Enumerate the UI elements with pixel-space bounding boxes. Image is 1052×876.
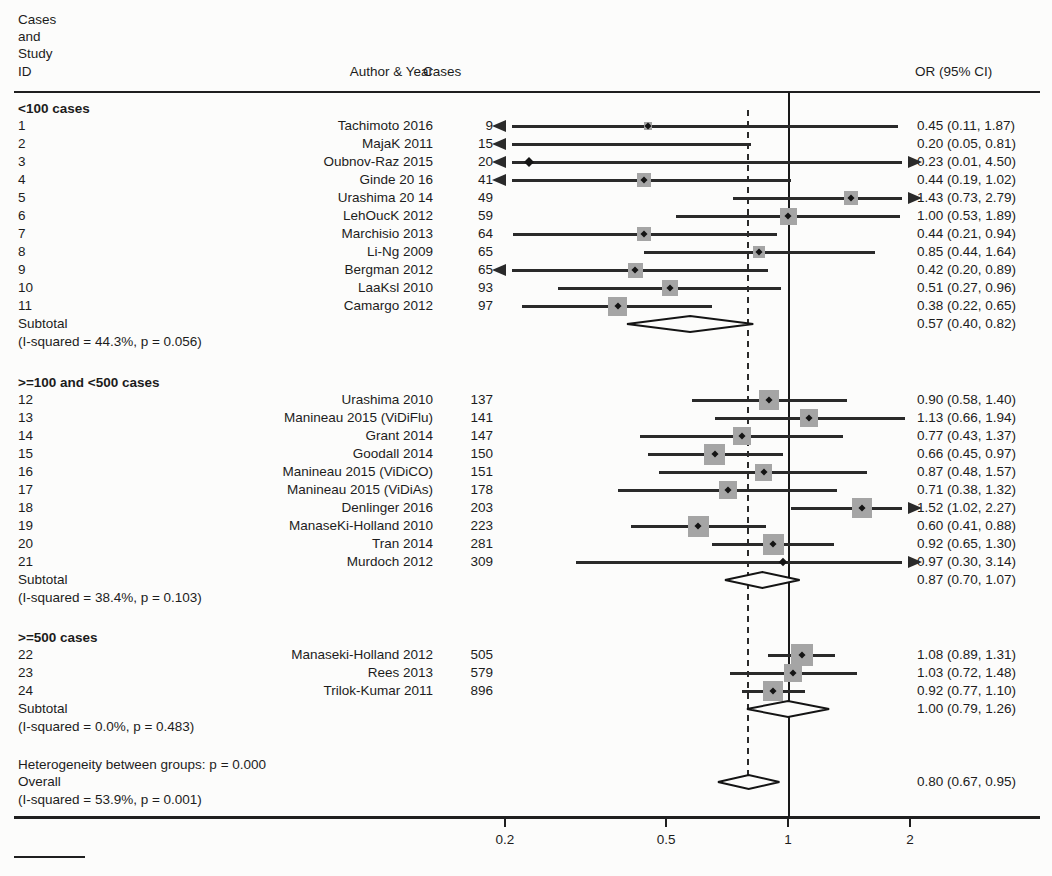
subtotal-diamond — [725, 572, 800, 588]
group-header: <100 cases — [18, 101, 90, 118]
study-cases: 896 — [443, 683, 493, 700]
study-id: 19 — [18, 518, 33, 535]
subtotal-isquared: (I-squared = 38.4%, p = 0.103) — [18, 590, 202, 607]
header-left-line-2: and — [18, 29, 41, 46]
study-ci-line — [512, 179, 791, 182]
study-cases: 93 — [443, 280, 493, 297]
study-id: 23 — [18, 665, 33, 682]
study-id: 7 — [18, 226, 26, 243]
study-cases: 505 — [443, 647, 493, 664]
study-author: Manineau 2015 (ViDiAs) — [150, 482, 433, 499]
axis-tick-label: 0.5 — [654, 832, 678, 849]
study-ci-line — [512, 161, 902, 164]
study-author: Bergman 2012 — [150, 262, 433, 279]
subtotal-or-text: 0.57 (0.40, 0.82) — [917, 316, 1016, 333]
study-or-text: 1.00 (0.53, 1.89) — [917, 208, 1016, 225]
study-author: Murdoch 2012 — [150, 554, 433, 571]
axis-tick — [787, 819, 789, 827]
study-cases: 59 — [443, 208, 493, 225]
subtotal-isquared: (I-squared = 44.3%, p = 0.056) — [18, 334, 202, 351]
subtotal-isquared: (I-squared = 0.0%, p = 0.483) — [18, 719, 194, 736]
study-id: 9 — [18, 262, 26, 279]
study-or-text: 0.87 (0.48, 1.57) — [917, 464, 1016, 481]
study-or-text: 0.92 (0.65, 1.30) — [917, 536, 1016, 553]
study-id: 4 — [18, 172, 26, 189]
study-point-marker — [778, 558, 786, 566]
study-ci-line — [512, 125, 898, 128]
study-ci-line — [791, 507, 902, 510]
study-id: 16 — [18, 464, 33, 481]
ci-clip-arrow-right — [908, 192, 922, 204]
axis-tick — [909, 819, 911, 827]
study-or-text: 0.38 (0.22, 0.65) — [917, 298, 1016, 315]
study-or-text: 0.44 (0.21, 0.94) — [917, 226, 1016, 243]
ci-clip-arrow-left — [492, 156, 506, 168]
study-author: LaaKsl 2010 — [150, 280, 433, 297]
study-or-text: 0.45 (0.11, 1.87) — [917, 118, 1015, 135]
group-header: >=100 and <500 cases — [18, 375, 160, 392]
study-or-text: 0.51 (0.27, 0.96) — [917, 280, 1016, 297]
study-cases: 223 — [443, 518, 493, 535]
header-left-line-4: ID — [18, 64, 32, 81]
study-or-text: 0.20 (0.05, 0.81) — [917, 136, 1016, 153]
header-rule — [14, 91, 1040, 93]
forest-plot: Cases and Study ID Author & Year Cases O… — [0, 0, 1052, 876]
study-author: Manaseki-Holland 2012 — [150, 647, 433, 664]
header-cases-col: Cases — [423, 64, 461, 81]
study-or-text: 0.44 (0.19, 1.02) — [917, 172, 1016, 189]
overall-estimate-dashed-line — [747, 110, 749, 783]
overall-diamond — [718, 775, 779, 789]
study-cases: 579 — [443, 665, 493, 682]
study-cases: 15 — [443, 136, 493, 153]
axis-tick-label: 1 — [776, 832, 800, 849]
ci-clip-arrow-right — [908, 156, 922, 168]
study-or-text: 0.71 (0.38, 1.32) — [917, 482, 1016, 499]
study-id: 21 — [18, 554, 33, 571]
study-cases: 41 — [443, 172, 493, 189]
study-id: 2 — [18, 136, 26, 153]
study-id: 14 — [18, 428, 33, 445]
study-or-text: 1.08 (0.89, 1.31) — [917, 647, 1016, 664]
ci-clip-arrow-right — [908, 502, 922, 514]
ci-clip-arrow-left — [492, 138, 506, 150]
ci-clip-arrow-right — [908, 556, 922, 568]
study-or-text: 0.97 (0.30, 3.14) — [917, 554, 1016, 571]
header-left-line-1: Cases — [18, 12, 56, 29]
study-author: Trilok-Kumar 2011 — [150, 683, 433, 700]
header-author-col: Author & Year — [233, 64, 433, 81]
subtotal-diamond — [627, 316, 753, 332]
study-or-text: 1.43 (0.73, 2.79) — [917, 190, 1016, 207]
study-cases: 309 — [443, 554, 493, 571]
study-or-text: 1.03 (0.72, 1.48) — [917, 665, 1016, 682]
study-author: ManaseKi-Holland 2010 — [150, 518, 433, 535]
study-author: Camargo 2012 — [150, 298, 433, 315]
study-author: Manineau 2015 (ViDiCO) — [150, 464, 433, 481]
study-author: Manineau 2015 (ViDiFlu) — [150, 410, 433, 427]
study-id: 15 — [18, 446, 33, 463]
study-or-text: 0.85 (0.44, 1.64) — [917, 244, 1016, 261]
study-id: 10 — [18, 280, 33, 297]
study-cases: 97 — [443, 298, 493, 315]
study-cases: 64 — [443, 226, 493, 243]
study-cases: 151 — [443, 464, 493, 481]
study-author: Goodall 2014 — [150, 446, 433, 463]
overall-or-text: 0.80 (0.67, 0.95) — [917, 774, 1016, 791]
study-id: 22 — [18, 647, 33, 664]
axis-rule — [14, 816, 1040, 819]
study-id: 13 — [18, 410, 33, 427]
study-author: Grant 2014 — [150, 428, 433, 445]
study-or-text: 1.52 (1.02, 2.27) — [917, 500, 1016, 517]
study-ci-line — [733, 197, 902, 200]
study-id: 24 — [18, 683, 33, 700]
study-id: 20 — [18, 536, 33, 553]
study-author: Urashima 2010 — [150, 392, 433, 409]
study-cases: 9 — [443, 118, 493, 135]
study-id: 18 — [18, 500, 33, 517]
study-or-text: 0.77 (0.43, 1.37) — [917, 428, 1016, 445]
footnote-rule — [14, 856, 85, 858]
subtotal-label: Subtotal — [18, 701, 68, 718]
study-id: 6 — [18, 208, 26, 225]
header-or-col: OR (95% CI) — [915, 64, 992, 81]
study-cases: 65 — [443, 244, 493, 261]
subtotal-diamond — [747, 701, 829, 717]
